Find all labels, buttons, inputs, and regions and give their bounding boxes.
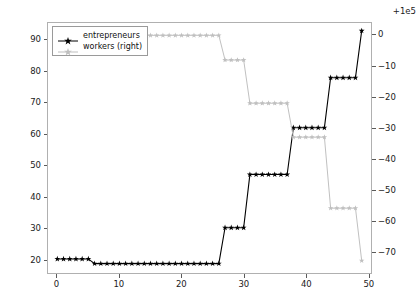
x-axis-tick-label: 40 [301, 280, 312, 289]
data-point [303, 125, 309, 131]
x-axis-tick-mark [181, 274, 182, 278]
data-point [266, 100, 271, 105]
data-point [67, 256, 73, 262]
data-point [203, 261, 209, 267]
data-point [166, 32, 171, 37]
data-point [98, 261, 104, 267]
data-point [309, 125, 315, 131]
data-point [210, 32, 215, 37]
series-line-entrepreneurs [57, 31, 361, 264]
data-point [222, 57, 227, 62]
data-point [179, 261, 185, 267]
left-axis-tick-label: 30 [12, 224, 41, 233]
data-point [228, 225, 234, 231]
data-point [266, 171, 272, 177]
data-point [191, 32, 196, 37]
left-axis-tick-mark [44, 39, 48, 40]
data-point [241, 225, 247, 231]
left-axis-tick-label: 60 [12, 130, 41, 139]
left-axis-tick-label: 20 [12, 256, 41, 265]
data-point [253, 100, 258, 105]
data-point [110, 261, 116, 267]
data-point [191, 261, 197, 267]
x-axis-tick-label: 20 [176, 280, 187, 289]
data-point [321, 125, 327, 131]
data-point [117, 261, 123, 267]
data-point [235, 57, 240, 62]
legend-swatch-workers [57, 42, 79, 52]
chart-figure: +1e5 entrepreneurs workers (right) 203 [0, 0, 420, 307]
data-point [328, 205, 333, 210]
right-axis-tick-label: −50 [378, 186, 396, 195]
right-axis-tick-label: −30 [378, 124, 396, 133]
data-point [353, 75, 359, 81]
series-entrepreneurs [54, 28, 364, 266]
data-point [148, 261, 154, 267]
data-point [185, 261, 191, 267]
data-point [359, 258, 364, 263]
data-point [347, 205, 352, 210]
left-axis-tick-mark [44, 260, 48, 261]
data-point [346, 75, 352, 81]
data-point [179, 32, 184, 37]
data-point [185, 32, 190, 37]
data-point [166, 261, 172, 267]
data-point [160, 32, 165, 37]
right-axis-tick-label: 0 [378, 30, 383, 39]
data-point [73, 256, 79, 262]
data-point [197, 261, 203, 267]
data-point [148, 32, 153, 37]
data-point [334, 75, 340, 81]
data-point [315, 125, 321, 131]
x-axis-tick-label: 30 [238, 280, 249, 289]
data-point [272, 171, 278, 177]
right-axis-tick-mark [372, 221, 376, 222]
left-axis-tick-label: 50 [12, 161, 41, 170]
data-point [278, 171, 284, 177]
data-point [173, 32, 178, 37]
right-axis-tick-mark [372, 128, 376, 129]
data-point [135, 261, 141, 267]
data-point [272, 100, 277, 105]
data-point [340, 75, 346, 81]
x-axis-tick-mark [244, 274, 245, 278]
left-axis-tick-label: 40 [12, 193, 41, 202]
series-workers [92, 32, 365, 263]
data-point [253, 171, 259, 177]
data-point [129, 261, 135, 267]
right-axis-tick-label: −20 [378, 92, 396, 101]
data-point [216, 261, 222, 267]
left-axis-tick-mark [44, 102, 48, 103]
x-axis-tick-label: 10 [113, 280, 124, 289]
legend-label-workers: workers (right) [83, 43, 142, 51]
right-axis-tick-label: −60 [378, 217, 396, 226]
left-axis-tick-label: 70 [12, 98, 41, 107]
left-axis-tick-mark [44, 165, 48, 166]
data-point [104, 261, 110, 267]
x-axis-tick-mark [119, 274, 120, 278]
data-point [204, 32, 209, 37]
data-point [247, 100, 252, 105]
data-point [160, 261, 166, 267]
data-point [259, 171, 265, 177]
chart-canvas [48, 23, 371, 273]
data-point [54, 256, 60, 262]
right-axis-tick-label: −40 [378, 155, 396, 164]
legend-label-entrepreneurs: entrepreneurs [83, 32, 140, 40]
data-point [334, 205, 339, 210]
data-point [123, 261, 129, 267]
plot-area [47, 22, 372, 274]
left-axis-tick-label: 90 [12, 35, 41, 44]
data-point [315, 134, 320, 139]
data-point [340, 205, 345, 210]
data-point [154, 261, 160, 267]
data-point [309, 134, 314, 139]
data-point [210, 261, 216, 267]
legend-item-entrepreneurs: entrepreneurs [57, 30, 142, 41]
right-axis-offset-text: +1e5 [393, 6, 416, 16]
right-axis-tick-mark [372, 159, 376, 160]
data-point [297, 134, 302, 139]
x-axis-tick-mark [369, 274, 370, 278]
x-axis-tick-label: 50 [363, 280, 374, 289]
left-axis-tick-mark [44, 134, 48, 135]
